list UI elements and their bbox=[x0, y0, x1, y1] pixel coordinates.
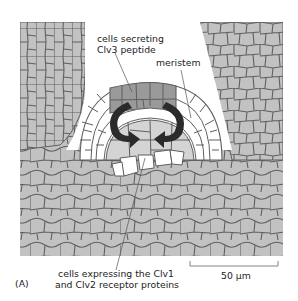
label-receptor-cells: cells expressing the Clv1 and Clv2 recep… bbox=[55, 268, 177, 290]
label-clv3-cells: cells secreting Clv3 peptide bbox=[97, 33, 164, 55]
scale-bar bbox=[190, 261, 278, 266]
label-clv3-line1: cells secreting bbox=[97, 33, 164, 44]
label-receptor-line1: cells expressing the Clv1 bbox=[55, 268, 177, 279]
label-meristem: meristem bbox=[156, 57, 200, 68]
panel-label: (A) bbox=[15, 278, 29, 289]
label-receptor-line2: and Clv2 receptor proteins bbox=[55, 279, 177, 290]
tissue bbox=[20, 22, 283, 256]
label-clv3-line2: Clv3 peptide bbox=[97, 44, 164, 55]
scale-bar-label: 50 µm bbox=[221, 270, 251, 281]
